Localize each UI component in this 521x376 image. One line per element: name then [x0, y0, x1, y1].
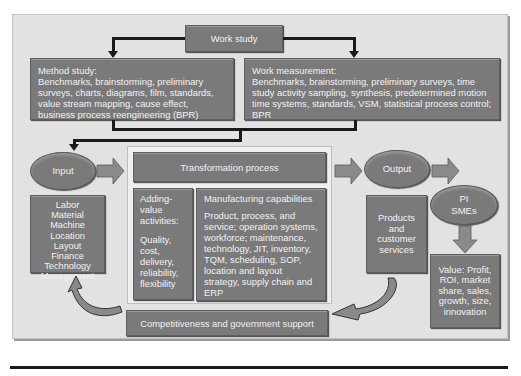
bottom-rule [10, 366, 508, 369]
value-label: Value: Profit, ROI, market share, sales,… [434, 265, 496, 318]
block-arrow-transformation-to-output [335, 158, 363, 184]
smes-label: SMEs [451, 205, 476, 217]
block-arrow-input-to-transformation [97, 158, 125, 184]
pi-label: PI [460, 193, 469, 205]
adding-value-body: Quality, cost, delivery, reliability, fl… [140, 234, 186, 289]
work-measurement-box: Work measurement: Benchmarks, brainstorm… [244, 58, 500, 120]
support-label: Competitiveness and government support [140, 318, 314, 329]
support-box: Competitiveness and government support [126, 310, 328, 336]
block-arrow-pi-to-value [453, 226, 477, 253]
work-study-box: Work study [185, 25, 283, 52]
work-measurement-body: Benchmarks, brainstorming, preliminary s… [252, 76, 492, 120]
method-study-body: Benchmarks, brainstorming, preliminary s… [38, 76, 226, 120]
products-label: Products and customer services [371, 213, 422, 255]
manufacturing-box: Manufacturing capabilities Product, proc… [196, 188, 326, 301]
transformation-title-box: Transformation process [133, 152, 326, 182]
output-oval: Output [364, 150, 430, 188]
curved-arrow-output-to-support [330, 276, 402, 324]
arrow-to-work-measurement [349, 51, 359, 58]
input-items-box: Labor Material Machine Location Layout F… [30, 195, 105, 273]
input-oval: Input [30, 152, 96, 190]
input-item: Finance [33, 251, 102, 261]
connector-mid-horizontal [112, 128, 357, 131]
output-label: Output [383, 163, 412, 175]
work-measurement-title: Work measurement: [252, 65, 492, 76]
connector-method-down [112, 37, 115, 51]
products-box: Products and customer services [366, 195, 427, 273]
input-item: Layout [33, 241, 102, 251]
connector-measurement-bottom [354, 120, 357, 130]
connector-measurement-down [353, 37, 356, 51]
connector-work-study-left [113, 37, 185, 40]
input-label: Input [52, 165, 73, 177]
manufacturing-body: Product, process, and service; operation… [204, 210, 318, 298]
arrow-to-input [69, 144, 79, 151]
connector-work-study-right [283, 37, 355, 40]
method-study-box: Method study: Benchmarks, brainstorming,… [30, 58, 234, 120]
transformation-title: Transformation process [180, 162, 278, 173]
adding-value-box: Adding-value activities: Quality, cost, … [133, 188, 193, 300]
input-item: Location [33, 231, 102, 241]
input-item: Technology [33, 261, 102, 271]
input-item: Material [33, 210, 102, 220]
input-item: Labor [33, 200, 102, 210]
work-study-label: Work study [211, 33, 258, 44]
block-arrow-output-to-pi [432, 158, 460, 184]
connector-to-input-horizontal [73, 139, 242, 142]
curved-arrow-support-to-input [62, 276, 126, 322]
arrow-to-method-study [108, 51, 118, 58]
pi-smes-oval: PI SMEs [430, 185, 498, 225]
manufacturing-title: Manufacturing capabilities [204, 193, 318, 204]
adding-value-title: Adding-value activities: [140, 193, 186, 226]
input-item: Machine [33, 220, 102, 230]
value-box: Value: Profit, ROI, market share, sales,… [430, 254, 500, 328]
method-study-title: Method study: [38, 65, 226, 76]
